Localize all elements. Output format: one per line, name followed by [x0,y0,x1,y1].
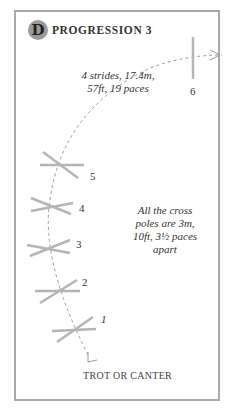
spacing-line-2: poles are 3m, [124,217,206,230]
pole-label-2: 2 [82,276,88,288]
spacing-note: All the cross poles are 3m, 10ft, 3½ pac… [124,204,206,256]
pole-label-6: 6 [190,85,196,97]
cross-pole-2 [35,280,80,303]
pole-label-5: 5 [90,170,96,182]
strides-line-2: 57ft, 19 paces [70,82,166,95]
cross-pole-1 [52,317,96,342]
gait-label: TROT OR CANTER [83,370,172,381]
pole-label-4: 4 [79,202,85,214]
pole-label-3: 3 [76,238,82,250]
strides-note: 4 strides, 17.4m, 57ft, 19 paces [70,69,166,95]
cross-pole-3 [27,240,70,256]
cross-pole-5 [40,152,84,178]
spacing-line-4: apart [124,243,206,256]
spacing-line-3: 10ft, 3½ paces [124,230,206,243]
strides-line-1: 4 strides, 17.4m, [70,69,166,82]
spacing-line-1: All the cross [124,204,206,217]
cross-pole-4 [31,198,73,214]
arrow-start-icon [88,352,97,362]
pole-label-1: 1 [101,313,107,325]
